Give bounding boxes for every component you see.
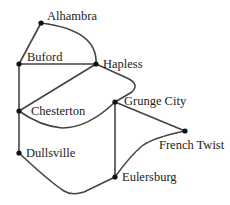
node-chesterton (16, 108, 21, 113)
label-eulersburg: Eulersburg (122, 170, 177, 184)
graph-diagram: Alhambra Buford Hapless Chesterton Grung… (0, 0, 230, 205)
label-hapless: Hapless (103, 57, 143, 71)
label-buford: Buford (27, 50, 63, 64)
node-hapless (93, 61, 98, 66)
label-grunge-city: Grunge City (124, 94, 187, 108)
label-french-twist: French Twist (159, 138, 225, 152)
node-alhambra (38, 20, 43, 25)
node-french-twist (182, 128, 187, 133)
node-buford (16, 61, 21, 66)
node-dullsville (16, 150, 21, 155)
label-alhambra: Alhambra (47, 9, 97, 23)
label-dullsville: Dullsville (26, 146, 76, 160)
label-chesterton: Chesterton (31, 104, 86, 118)
node-eulersburg (112, 174, 117, 179)
node-grunge-city (112, 99, 117, 104)
